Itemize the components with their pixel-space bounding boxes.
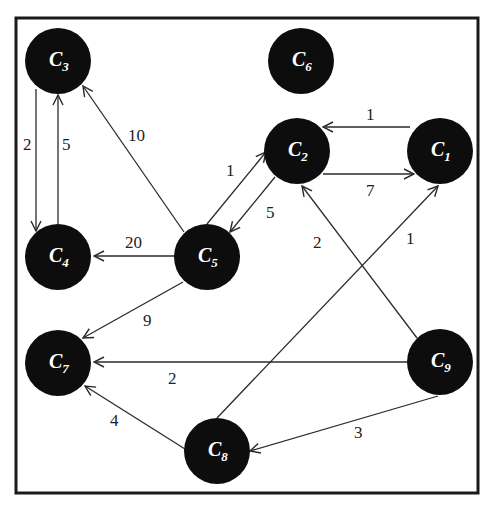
node-c2: C2 bbox=[264, 118, 330, 184]
node-c4: C4 bbox=[25, 224, 91, 290]
edge-weight-label: 5 bbox=[266, 203, 275, 222]
edge-weight-label: 20 bbox=[125, 233, 142, 252]
edge-weight-label: 3 bbox=[354, 423, 363, 442]
node-c9: C9 bbox=[407, 329, 473, 395]
edge-weight-label: 10 bbox=[128, 126, 145, 145]
edge-weight-label: 7 bbox=[366, 181, 375, 200]
edge-weight-label: 9 bbox=[143, 311, 152, 330]
graph-canvas: 1725101520921243 C1C2C3C4C5C6C7C8C9 bbox=[0, 0, 494, 512]
edge-c5-to-c2 bbox=[207, 152, 266, 224]
node-c8: C8 bbox=[184, 418, 250, 484]
node-c6: C6 bbox=[268, 28, 334, 94]
edge-c5-to-c7 bbox=[83, 282, 183, 338]
edge-c8-to-c7 bbox=[85, 386, 185, 449]
edge-c5-to-c3 bbox=[83, 86, 184, 232]
edge-c9-to-c2 bbox=[302, 186, 417, 338]
edge-weight-label: 1 bbox=[406, 229, 415, 248]
edge-weight-label: 1 bbox=[226, 161, 235, 180]
edge-weight-label: 2 bbox=[313, 233, 322, 252]
edge-c8-to-c1 bbox=[217, 186, 438, 418]
nodes-layer: C1C2C3C4C5C6C7C8C9 bbox=[25, 28, 473, 484]
edge-weight-label: 4 bbox=[110, 411, 119, 430]
edge-weight-label: 5 bbox=[62, 135, 71, 154]
node-c7: C7 bbox=[25, 330, 91, 396]
node-c5: C5 bbox=[174, 224, 240, 290]
edge-weight-label: 2 bbox=[168, 369, 177, 388]
node-c3: C3 bbox=[25, 28, 91, 94]
node-c1: C1 bbox=[407, 118, 473, 184]
edge-weight-label: 2 bbox=[23, 135, 32, 154]
edge-weight-label: 1 bbox=[366, 105, 375, 124]
edge-c9-to-c8 bbox=[250, 396, 438, 451]
